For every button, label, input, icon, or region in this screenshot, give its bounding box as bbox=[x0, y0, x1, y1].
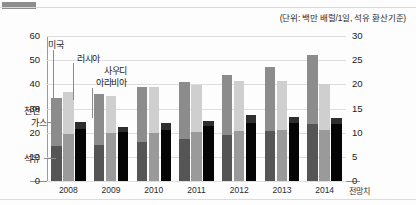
bar-segment-oil bbox=[234, 131, 245, 181]
y-tick-left: 0 bbox=[18, 175, 40, 186]
bar-러시아-2013 bbox=[277, 81, 288, 181]
bar-segment-oil bbox=[179, 139, 190, 181]
x-tick-2010: 2010 bbox=[134, 185, 174, 195]
bar-segment-gas bbox=[94, 94, 105, 145]
bar-미국-2010 bbox=[137, 87, 148, 181]
bar-segment-oil bbox=[63, 134, 74, 181]
bottom-divider bbox=[0, 199, 416, 200]
bar-segment-oil bbox=[161, 130, 172, 181]
annotation-saudi-leader bbox=[92, 88, 93, 118]
y-tick-right: 5 bbox=[352, 151, 376, 162]
bar-러시아-2011 bbox=[191, 85, 202, 181]
bar-segment-oil bbox=[319, 130, 330, 181]
annotation-russia: 러시아 bbox=[77, 52, 100, 65]
bar-segment-oil bbox=[106, 133, 117, 181]
bar-사우디아라비아-2014 bbox=[331, 118, 342, 181]
bar-segment-oil bbox=[51, 146, 62, 181]
bar-사우디아라비아-2010 bbox=[161, 123, 172, 181]
x-tick-2011: 2011 bbox=[177, 185, 217, 195]
bar-러시아-2008 bbox=[63, 92, 74, 181]
y-tick-right: 10 bbox=[352, 127, 376, 138]
unit-caption: (단위: 백만 배럴/1일, 석유 환산기준) bbox=[280, 11, 406, 23]
bar-러시아-2014 bbox=[319, 84, 330, 181]
bar-segment-oil bbox=[137, 142, 148, 181]
bar-사우디아라비아-2008 bbox=[75, 122, 86, 181]
bar-segment-gas bbox=[234, 81, 245, 130]
y-tick-left: 50 bbox=[18, 54, 40, 65]
annotation-saudi-line2: 아라비아 bbox=[96, 76, 127, 89]
x-tick-2013: 2013 bbox=[262, 185, 302, 195]
bar-segment-oil bbox=[265, 131, 276, 181]
annotation-russia-leader bbox=[73, 63, 74, 100]
bar-segment-oil bbox=[203, 126, 214, 181]
top-divider bbox=[0, 7, 416, 8]
y-tick-left: 60 bbox=[18, 30, 40, 41]
x-tick-2009: 2009 bbox=[91, 185, 131, 195]
y-tick-right: 25 bbox=[352, 54, 376, 65]
x-tick-2012: 2012 bbox=[219, 185, 259, 195]
bar-사우디아라비아-2011 bbox=[203, 121, 214, 181]
x-tick-2014: 2014 bbox=[305, 185, 345, 195]
gridline bbox=[47, 36, 346, 37]
bar-미국-2008 bbox=[51, 98, 62, 181]
bar-segment-gas bbox=[179, 82, 190, 139]
bar-segment-gas bbox=[191, 85, 202, 131]
bar-segment-oil bbox=[75, 129, 86, 181]
bar-segment-oil bbox=[277, 130, 288, 181]
bar-segment-gas bbox=[222, 75, 233, 135]
bar-러시아-2009 bbox=[106, 96, 117, 181]
bar-segment-gas bbox=[307, 55, 318, 125]
y-tick-left: 40 bbox=[18, 78, 40, 89]
bar-미국-2013 bbox=[265, 67, 276, 181]
bar-segment-oil bbox=[289, 123, 300, 181]
bar-segment-gas bbox=[137, 87, 148, 143]
bar-러시아-2010 bbox=[149, 87, 160, 181]
bar-미국-2009 bbox=[94, 94, 105, 181]
bar-segment-gas bbox=[149, 87, 160, 132]
y-tick-right: 30 bbox=[352, 30, 376, 41]
bar-segment-gas bbox=[319, 84, 330, 130]
bar-segment-oil bbox=[149, 133, 160, 181]
bar-미국-2014 bbox=[307, 55, 318, 181]
bar-segment-gas bbox=[277, 81, 288, 130]
annotation-gas-line2: 가스 bbox=[31, 116, 46, 129]
annotation-oil: 석유 bbox=[24, 152, 39, 165]
bar-segment-oil bbox=[246, 123, 257, 181]
bar-segment-oil bbox=[222, 135, 233, 181]
bar-segment-oil bbox=[331, 124, 342, 181]
bar-사우디아라비아-2012 bbox=[246, 115, 257, 181]
annotation-gas-leader bbox=[47, 122, 56, 123]
bar-미국-2011 bbox=[179, 82, 190, 181]
bar-segment-oil bbox=[118, 132, 129, 181]
y-tick-right: 15 bbox=[352, 103, 376, 114]
bar-segment-gas bbox=[246, 115, 257, 122]
bar-러시아-2012 bbox=[234, 81, 245, 181]
bar-segment-oil bbox=[191, 132, 202, 181]
x-tick-2008: 2008 bbox=[48, 185, 88, 195]
bar-segment-oil bbox=[307, 124, 318, 181]
bar-segment-gas bbox=[265, 67, 276, 131]
bar-사우디아라비아-2013 bbox=[289, 117, 300, 181]
bar-segment-gas bbox=[75, 122, 86, 129]
bar-segment-oil bbox=[94, 145, 105, 181]
gridline bbox=[47, 181, 346, 182]
bar-segment-gas bbox=[106, 96, 117, 133]
y-tick-right: 20 bbox=[352, 78, 376, 89]
annotation-oil-leader bbox=[44, 158, 56, 159]
bar-사우디아라비아-2009 bbox=[118, 127, 129, 181]
bar-미국-2012 bbox=[222, 75, 233, 181]
chart-canvas: (단위: 백만 배럴/1일, 석유 환산기준) 6050403020100 30… bbox=[0, 0, 416, 205]
annotation-us: 미국 bbox=[48, 38, 63, 51]
bar-segment-gas bbox=[161, 123, 172, 130]
annotation-us-leader bbox=[53, 50, 54, 98]
forecast-label: 전망치 bbox=[349, 185, 370, 196]
